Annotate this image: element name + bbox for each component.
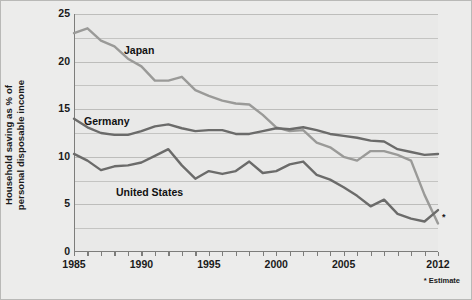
x-tick-label-1990: 1990 bbox=[130, 258, 153, 270]
x-tick-mark-1997 bbox=[236, 252, 237, 256]
x-tick-mark-1999 bbox=[263, 252, 264, 256]
x-tick-mark-2000 bbox=[276, 252, 277, 256]
x-tick-label-2000: 2000 bbox=[265, 258, 288, 270]
x-tick-mark-2011 bbox=[425, 252, 426, 256]
x-tick-label-2005: 2005 bbox=[332, 258, 355, 270]
chart-figure: Household saving as % of personal dispos… bbox=[0, 0, 472, 300]
x-tick-mark-2003 bbox=[317, 252, 318, 256]
estimate-asterisk: * bbox=[442, 212, 446, 222]
x-tick-mark-2001 bbox=[290, 252, 291, 256]
x-tick-mark-1995 bbox=[209, 252, 210, 256]
series-label-japan: Japan bbox=[124, 44, 154, 56]
x-tick-mark-2007 bbox=[371, 252, 372, 256]
x-tick-mark-1994 bbox=[195, 252, 196, 256]
x-tick-mark-1989 bbox=[128, 252, 129, 256]
x-tick-mark-1986 bbox=[87, 252, 88, 256]
x-tick-label-1995: 1995 bbox=[197, 258, 220, 270]
x-tick-mark-1993 bbox=[182, 252, 183, 256]
x-tick-mark-2004 bbox=[330, 252, 331, 256]
x-tick-mark-1998 bbox=[249, 252, 250, 256]
x-tick-mark-2006 bbox=[357, 252, 358, 256]
x-tick-mark-1988 bbox=[114, 252, 115, 256]
x-tick-mark-1992 bbox=[168, 252, 169, 256]
x-tick-mark-2009 bbox=[398, 252, 399, 256]
footnote-estimate: * Estimate bbox=[424, 276, 460, 285]
x-tick-mark-1985 bbox=[74, 252, 75, 256]
x-tick-mark-2008 bbox=[384, 252, 385, 256]
x-tick-mark-1990 bbox=[141, 252, 142, 256]
x-tick-mark-1991 bbox=[155, 252, 156, 256]
x-tick-mark-2002 bbox=[303, 252, 304, 256]
x-tick-mark-2005 bbox=[344, 252, 345, 256]
x-tick-label-2012: 2012 bbox=[426, 258, 449, 270]
x-tick-mark-2012 bbox=[438, 252, 439, 256]
series-label-germany: Germany bbox=[84, 115, 130, 127]
x-tick-mark-1996 bbox=[222, 252, 223, 256]
x-tick-mark-2010 bbox=[411, 252, 412, 256]
x-tick-label-1985: 1985 bbox=[62, 258, 85, 270]
series-label-united-states: United States bbox=[116, 186, 183, 198]
x-tick-mark-1987 bbox=[101, 252, 102, 256]
